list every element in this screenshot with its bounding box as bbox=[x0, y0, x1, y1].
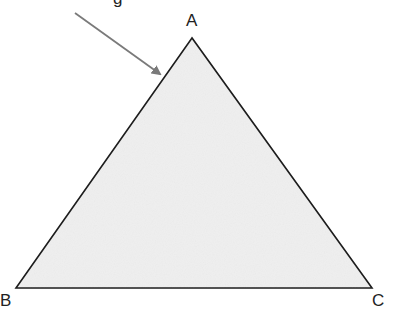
arrow bbox=[75, 13, 160, 74]
vertex-label-a: A bbox=[186, 11, 198, 30]
triangle-texture bbox=[16, 38, 372, 288]
vertex-label-b: B bbox=[0, 291, 11, 310]
vertex-label-c: C bbox=[372, 291, 384, 310]
triangle-diagram: g A B C bbox=[0, 0, 393, 314]
cropped-top-text: g bbox=[113, 0, 122, 8]
